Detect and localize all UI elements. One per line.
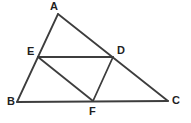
geometry-figure: A B C D E F: [0, 0, 191, 123]
vertex-label-e: E: [27, 46, 34, 57]
vertex-label-c: C: [172, 95, 180, 106]
vertex-label-d: D: [117, 45, 125, 56]
midsegment-ef: [38, 57, 93, 101]
segments-group: [17, 14, 168, 102]
vertex-label-f: F: [89, 106, 96, 117]
side-ab: [17, 14, 58, 102]
midsegment-df: [93, 57, 113, 101]
vertex-label-a: A: [50, 1, 58, 12]
vertex-label-b: B: [7, 96, 15, 107]
